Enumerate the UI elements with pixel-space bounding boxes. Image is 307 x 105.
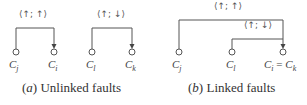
coupling-arrow-a2 [92,28,132,49]
cell-node-b-l [229,49,235,55]
cell-node-a-k [129,49,135,55]
coupling-arrow-a1 [16,28,54,49]
arrowhead-icon [130,44,135,49]
fault-tag-a2: ⟨↑; ↓⟩ [97,9,125,19]
arrowhead-icon [52,44,57,49]
cell-label-b-l: Cl [226,58,236,73]
fault-tag-b2: ⟨↑; ↓⟩ [244,20,272,30]
coupling-arrow-b2 [232,39,283,49]
arrowhead-icon [281,44,286,49]
fault-tag-b1: ⟨↑; ↑⟩ [214,1,242,11]
fault-tag-a1: ⟨↑; ↑⟩ [19,9,47,19]
cell-node-b-j [176,49,182,55]
cell-label-a-k: Ck [125,58,136,73]
cell-label-b-j: Cj [172,58,182,73]
cell-node-b-ik [280,49,286,55]
cell-node-a-i [51,49,57,55]
caption-b: (b) Linked faults [188,80,275,96]
cell-label-a-l: Cl [86,58,96,73]
cell-node-a-j [13,49,19,55]
cell-label-a-i: Ci [48,58,58,73]
cell-node-a-l [89,49,95,55]
cell-label-b-ik: Ci = Ck [264,58,296,73]
cell-label-a-j: Cj [9,58,19,73]
caption-a: (a) Unlinked faults [22,80,121,96]
